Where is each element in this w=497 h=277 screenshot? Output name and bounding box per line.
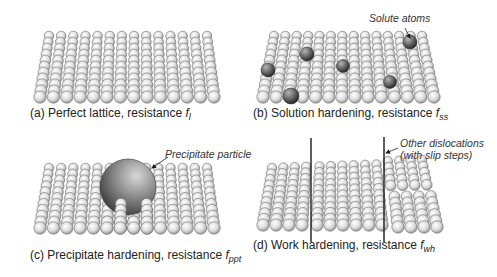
solute-atom — [300, 47, 314, 61]
panel-perfect-lattice — [34, 31, 220, 103]
resistance-subscript: ppt — [229, 254, 242, 264]
lattice-atom — [375, 91, 387, 103]
lattice-atom — [421, 179, 432, 190]
dislocation-pointer-arrow — [386, 148, 398, 153]
lattice-atom — [415, 91, 427, 103]
lattice-atom — [208, 222, 220, 234]
caption-precipitate-hardening: (c) Precipitate hardening, resistance fp… — [30, 248, 241, 264]
lattice-atom — [61, 91, 73, 103]
other-dislocations-line2: (with slip steps) — [400, 149, 484, 161]
panel-solution-hardening — [257, 28, 440, 104]
lattice-atom — [402, 91, 414, 103]
lattice-atom — [336, 91, 348, 103]
lattice-atom — [337, 219, 349, 231]
solute-atom — [283, 88, 299, 104]
solute-atom — [403, 35, 417, 49]
lattice-atom — [311, 219, 323, 231]
lattice-atom — [168, 91, 180, 103]
lattice-atom — [114, 91, 126, 103]
lattice-atom — [270, 91, 282, 103]
lattice-atom — [47, 222, 59, 234]
lattice-atom — [47, 91, 59, 103]
resistance-subscript: wh — [424, 244, 436, 254]
lattice-atom — [362, 91, 374, 103]
lattice-atom — [385, 180, 396, 191]
lattice-atom — [392, 221, 404, 233]
lattice-atom — [101, 222, 113, 234]
resistance-subscript: l — [189, 112, 191, 122]
lattice-atom — [349, 91, 361, 103]
lattice-atom — [61, 222, 73, 234]
lattice-atom — [409, 180, 420, 191]
lattice-atom — [114, 222, 126, 234]
lattice-atom — [208, 91, 220, 103]
lattice-atom — [431, 221, 443, 233]
lattice-atom — [257, 91, 269, 103]
lattice-atom — [154, 91, 166, 103]
lattice-atom — [128, 222, 140, 234]
lattice-atom — [350, 219, 362, 231]
caption-text: (a) Perfect lattice, resistance — [30, 106, 185, 120]
solute-atoms-label: Solute atoms — [369, 12, 430, 24]
lattice-atom — [154, 222, 166, 234]
lattice-atom — [324, 219, 336, 231]
lattice-atom — [141, 222, 153, 234]
caption-text: (b) Solution hardening, resistance — [253, 106, 436, 120]
caption-solution-hardening: (b) Solution hardening, resistance fss — [253, 106, 448, 122]
caption-perfect-lattice: (a) Perfect lattice, resistance fl — [30, 106, 191, 122]
lattice-atom — [168, 222, 180, 234]
lattice-atom — [283, 219, 295, 231]
lattice-atom — [181, 222, 193, 234]
lattice-atom — [34, 91, 46, 103]
caption-work-hardening: (d) Work hardening, resistance fwh — [253, 238, 435, 254]
caption-text: (c) Precipitate hardening, resistance — [30, 248, 225, 262]
lattice-atom — [128, 91, 140, 103]
panel-precipitate-hardening — [34, 157, 220, 234]
lattice-atom — [376, 219, 388, 231]
lattice-atom — [74, 222, 86, 234]
lattice-atom — [194, 222, 206, 234]
lattice-atom — [87, 222, 99, 234]
lattice-atom — [34, 222, 46, 234]
lattice-atom — [296, 219, 308, 231]
resistance-subscript: ss — [439, 112, 448, 122]
lattice-atom — [428, 91, 440, 103]
precipitate-particle-label: Precipitate particle — [165, 148, 251, 160]
lattice-atom — [418, 221, 430, 233]
lattice-atom — [270, 219, 282, 231]
lattice-atom — [257, 219, 269, 231]
solute-atom — [384, 76, 397, 89]
caption-text: (d) Work hardening, resistance — [253, 238, 420, 252]
lattice-atom — [194, 91, 206, 103]
lattice-atom — [397, 180, 408, 191]
lattice-atom — [363, 219, 375, 231]
other-dislocations-line1: Other dislocations — [400, 137, 484, 149]
lattice-atom — [101, 91, 113, 103]
solute-atom — [261, 63, 275, 77]
lattice-atom — [141, 91, 153, 103]
lattice-atom — [309, 91, 321, 103]
solute-atom — [337, 60, 350, 73]
lattice-atom — [87, 91, 99, 103]
lattice-atom — [405, 221, 417, 233]
other-dislocations-label: Other dislocations (with slip steps) — [400, 137, 484, 161]
lattice-atom — [181, 91, 193, 103]
lattice-atom — [388, 91, 400, 103]
lattice-atom — [74, 91, 86, 103]
lattice-atom — [323, 91, 335, 103]
